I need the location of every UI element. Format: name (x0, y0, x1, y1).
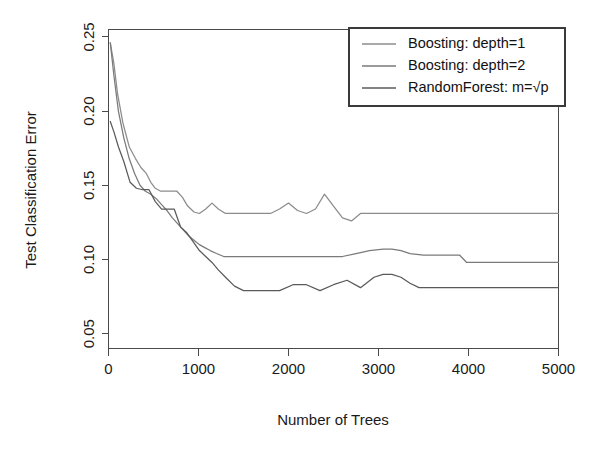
y-tick-label: 0.15 (80, 171, 97, 200)
chart-svg: 0.050.100.150.200.25 0100020003000400050… (0, 0, 606, 453)
y-axis: 0.050.100.150.200.25 (80, 22, 109, 348)
x-tick-label: 1000 (182, 360, 215, 377)
series-line-2 (110, 121, 558, 290)
x-tick-label: 3000 (362, 360, 395, 377)
x-tick-label: 2000 (272, 360, 305, 377)
chart-legend: Boosting: depth=1Boosting: depth=2Random… (349, 28, 565, 106)
y-tick-label: 0.25 (80, 22, 97, 51)
x-axis: 010002000300040005000 (104, 349, 575, 377)
y-axis-title: Test Classification Error (22, 111, 39, 269)
legend-label-1: Boosting: depth=2 (408, 57, 525, 73)
x-tick-label: 4000 (452, 360, 485, 377)
y-tick-label: 0.10 (80, 245, 97, 274)
x-axis-title: Number of Trees (277, 411, 389, 428)
y-tick-label: 0.20 (80, 97, 97, 126)
x-tick-label: 5000 (542, 360, 575, 377)
legend-label-2: RandomForest: m=√p (408, 79, 549, 95)
y-tick-label: 0.05 (80, 319, 97, 348)
x-tick-label: 0 (104, 360, 112, 377)
chart-figure: 0.050.100.150.200.25 0100020003000400050… (0, 0, 606, 453)
legend-label-0: Boosting: depth=1 (408, 35, 525, 51)
